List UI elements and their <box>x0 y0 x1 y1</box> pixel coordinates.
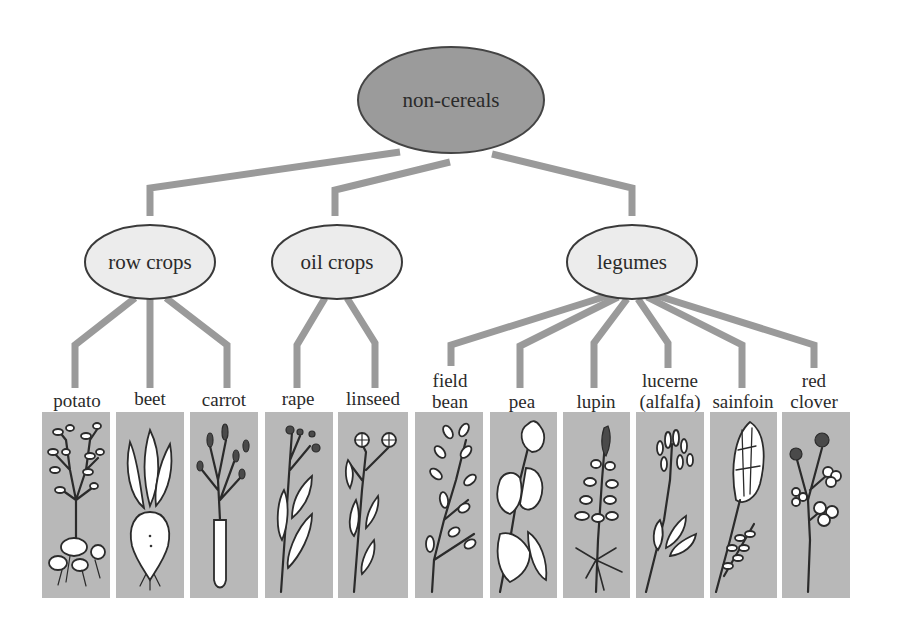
category-node-oil-crops: oil crops <box>272 225 402 299</box>
connector-lucerne <box>638 299 668 368</box>
lupin-plant-icon <box>563 412 630 598</box>
crop-label-red-clover-line1: red <box>802 370 827 391</box>
root-label: non-cereals <box>403 88 500 112</box>
crop-label-lucerne-line2: (alfalfa) <box>639 391 700 413</box>
connector-root-oil-crops <box>335 162 450 216</box>
connector-lupin <box>594 299 627 388</box>
connector-carrot <box>166 298 227 388</box>
crop-label-red-clover-line2: clover <box>790 391 838 412</box>
connector-rape <box>297 298 325 388</box>
carrot-plant-icon <box>190 412 258 598</box>
crop-label-carrot: carrot <box>202 389 247 410</box>
crop-label-potato: potato <box>53 390 101 411</box>
beet-plant-icon <box>116 412 184 598</box>
lucerne-plant-icon <box>636 412 704 598</box>
connector-field-bean <box>451 295 610 366</box>
category-node-row-crops: row crops <box>85 225 215 299</box>
crop-label-beet: beet <box>134 388 166 409</box>
connector-linseed <box>347 298 375 388</box>
category-node-legumes: legumes <box>567 225 697 299</box>
category-label: row crops <box>108 250 191 274</box>
crop-label-field-bean-line2: bean <box>432 391 468 412</box>
root-node: non-cereals <box>358 47 544 153</box>
crop-label-field-bean-line1: field <box>433 370 468 391</box>
crop-label-rape: rape <box>282 388 315 409</box>
category-label: legumes <box>597 250 667 274</box>
crop-classification-diagram: non-cereals row crops oil crops legumes … <box>0 0 901 635</box>
field-bean-plant-icon <box>415 412 483 598</box>
linseed-plant-icon <box>338 412 408 598</box>
crop-label-sainfoin: sainfoin <box>712 391 774 412</box>
potato-plant-icon <box>42 412 110 598</box>
category-label: oil crops <box>301 250 374 274</box>
connector-red-clover <box>655 295 814 368</box>
rape-plant-icon <box>265 412 333 598</box>
red-clover-plant-icon <box>782 412 850 598</box>
crop-label-lucerne-line1: lucerne <box>642 370 698 391</box>
crop-label-pea: pea <box>509 391 536 412</box>
illustration-panels <box>42 412 850 598</box>
root-connectors <box>150 152 632 216</box>
connector-potato <box>75 298 135 388</box>
connector-root-legumes <box>492 154 632 216</box>
crop-labels: potato beet carrot rape linseed field be… <box>53 370 838 413</box>
crop-label-lupin: lupin <box>576 391 616 412</box>
pea-plant-icon <box>490 412 557 598</box>
crop-label-linseed: linseed <box>346 388 400 409</box>
sainfoin-plant-icon <box>710 412 777 598</box>
